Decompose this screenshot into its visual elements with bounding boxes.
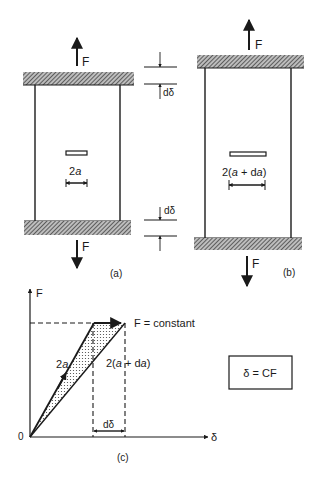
displacement-marker-bottom: dδ <box>144 205 177 251</box>
displacement-increment-label: dδ <box>103 419 115 430</box>
panel-c-load-displacement-plot: F δ 0 2a 2(a + da) F = constant dδ (c) <box>18 287 217 463</box>
crack <box>66 151 87 155</box>
extended-crack <box>230 152 266 156</box>
panel-label-b: (b) <box>283 267 295 278</box>
svg-text:dδ: dδ <box>164 205 176 216</box>
bottom-grip-plate <box>24 221 131 235</box>
crack-dimension-line <box>66 179 87 187</box>
compliance-equation-box: δ = CF <box>229 356 292 389</box>
panel-b: F 2(a + da) F (b) <box>194 20 304 286</box>
panel-label-c: (c) <box>117 452 129 463</box>
svg-text:dδ: dδ <box>163 87 175 98</box>
y-axis-label: F <box>36 287 43 299</box>
compliance-equation: δ = CF <box>243 367 277 379</box>
x-axis-label: δ <box>211 431 217 443</box>
force-label-bottom: F <box>82 240 89 254</box>
top-grip-plate <box>197 55 304 68</box>
origin-label: 0 <box>18 431 24 442</box>
top-grip-plate <box>23 72 134 85</box>
crack-length-label: 2a <box>69 165 81 177</box>
bottom-grip-plate <box>194 238 302 250</box>
force-label-top: F <box>82 55 89 69</box>
line-label-2a-plus-da: 2(a + da) <box>106 357 150 369</box>
force-label-bottom: F <box>252 257 259 271</box>
force-label-top: F <box>255 38 262 52</box>
crack-length-label: 2(a + da) <box>222 166 266 178</box>
crack-dimension-line <box>229 180 265 190</box>
displacement-marker-top: dδ <box>144 52 177 99</box>
panel-a: F 2a F (a) <box>23 38 134 279</box>
force-constant-annotation: F = constant <box>134 317 195 329</box>
line-label-2a: 2a <box>56 358 68 370</box>
panel-label-a: (a) <box>110 268 122 279</box>
fracture-compliance-diagram: F 2a F (a) dδ <box>0 0 315 485</box>
